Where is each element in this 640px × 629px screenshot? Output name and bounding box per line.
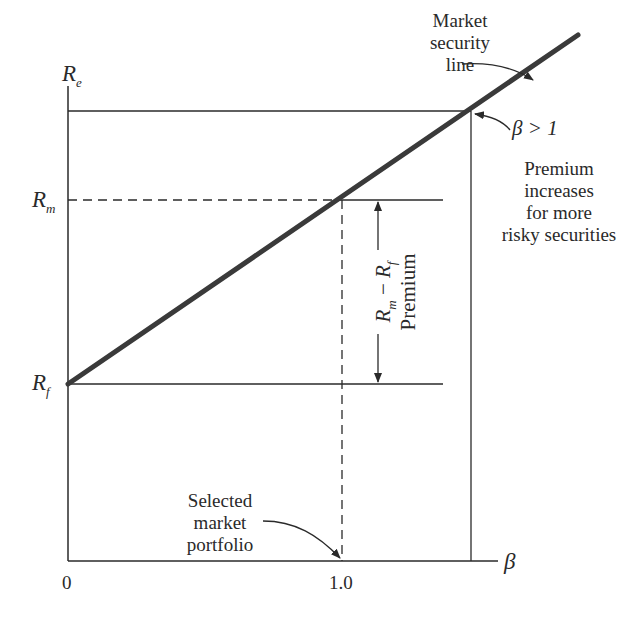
sml-annotation: Market security line [415, 10, 505, 76]
beta-gt-1-callout-arrow [475, 114, 510, 130]
beta-gt-1-label: β > 1 [512, 118, 558, 139]
x-tick-1: 1.0 [329, 573, 353, 592]
sml-diagram [0, 0, 640, 629]
x-tick-0: 0 [62, 573, 72, 592]
y-axis-label: Re [62, 62, 82, 85]
rf-label: Rf [32, 371, 50, 394]
x-axis-label: β [504, 550, 515, 573]
selected-portfolio-annotation: Selected market portfolio [175, 490, 265, 556]
rm-label: Rm [32, 188, 55, 211]
premium-bracket-label: Rm − Rf Premium [372, 254, 419, 331]
selected-portfolio-callout-arrow [263, 521, 340, 558]
premium-increase-note: Premium increases for more risky securit… [478, 158, 640, 246]
